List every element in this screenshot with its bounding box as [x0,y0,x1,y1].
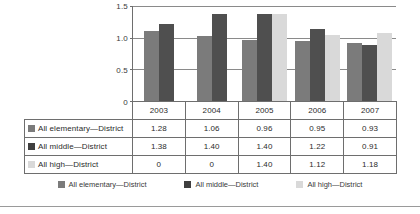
legend-swatch-icon [58,181,65,188]
bar [159,24,174,101]
y-tick-label: 1.5 [116,2,128,11]
table-cell: 1.38 [133,138,186,156]
table-cell: 1.18 [344,156,397,174]
table-cell: 0.93 [344,120,397,138]
series-swatch-icon [28,143,35,150]
row-header: All high—District [25,156,133,174]
column-header-2005: 2005 [238,102,291,120]
legend-label: All high—District [307,180,362,189]
table-row: All middle—District1.381.401.401.220.91 [25,138,397,156]
column-header-2003: 2003 [133,102,186,120]
table-cell: 0 [185,156,238,174]
bar [212,14,227,101]
series-swatch-icon [28,125,35,132]
bar [242,40,257,101]
bar-group-2003 [133,6,186,101]
row-header: All middle—District [25,138,133,156]
bar [347,43,362,101]
bar [197,36,212,101]
bar [144,31,159,101]
column-header-2007: 2007 [344,102,397,120]
legend-swatch-icon [184,181,191,188]
table-cell: 1.12 [291,156,344,174]
legend-label: All middle—District [195,180,258,189]
bar [362,45,377,101]
bar [310,29,325,101]
legend-item: All middle—District [184,180,258,189]
bar [257,14,272,101]
legend-item: All elementary—District [58,180,147,189]
table-header-row: 20032004200520062007 [25,102,397,120]
table-cell: 1.06 [185,120,238,138]
table-cell: 1.40 [238,138,291,156]
row-header: All elementary—District [25,120,133,138]
bar-group-2006 [291,6,344,101]
column-header-2004: 2004 [185,102,238,120]
bar [295,41,310,101]
table-cell: 0 [133,156,186,174]
table-cell: 1.40 [185,138,238,156]
bar-group-2007 [343,6,396,101]
legend-item: All high—District [296,180,362,189]
bar [325,35,340,102]
table-cell: 1.28 [133,120,186,138]
table-cell: 1.40 [238,156,291,174]
bar [272,14,287,101]
bottom-divider [0,206,420,207]
table-cell: 1.22 [291,138,344,156]
bar-group-2004 [186,6,239,101]
plot-canvas [132,6,396,102]
series-swatch-icon [28,161,35,168]
table-cell: 0.95 [291,120,344,138]
chart-figure: 1.5 1.0 0.5 0 20032004200520062007All el… [0,0,420,214]
bar-group-2005 [238,6,291,101]
bar-groups [133,6,396,101]
legend-swatch-icon [296,181,303,188]
chart-legend: All elementary—DistrictAll middle—Distri… [24,180,396,189]
y-tick-label: 0.5 [116,65,128,74]
y-tick-label: 1.0 [116,33,128,42]
y-axis: 1.5 1.0 0.5 0 [104,6,128,102]
table-cell: 0.91 [344,138,397,156]
column-header-2006: 2006 [291,102,344,120]
table-row: All high—District001.401.121.18 [25,156,397,174]
table-cell: 0.96 [238,120,291,138]
data-table: 20032004200520062007All elementary—Distr… [24,101,397,174]
legend-label: All elementary—District [69,180,147,189]
table-corner-cell [25,102,133,120]
chart-plot-area: 1.5 1.0 0.5 0 [104,6,396,102]
bar [377,33,392,101]
table-row: All elementary—District1.281.060.960.950… [25,120,397,138]
